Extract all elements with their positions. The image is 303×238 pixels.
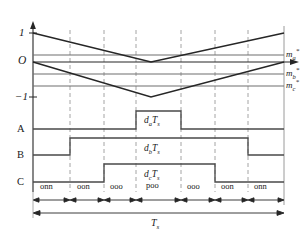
m-c-star-label: mc* xyxy=(286,79,299,92)
m-a-star-label: ma* xyxy=(286,48,299,61)
duty-b-tail-sub: s xyxy=(157,148,160,155)
row-label-a: A xyxy=(17,124,25,135)
state-label-3: ooo xyxy=(110,182,123,191)
state-label-7: onn xyxy=(254,182,267,191)
lower-carrier-waveform xyxy=(33,62,284,97)
state-label-5: ooo xyxy=(187,182,200,191)
figure-canvas: 1 O −1 A B C ma* mb* mc* daTs dbTs dcTs … xyxy=(0,0,303,238)
state-label-2: oon xyxy=(77,182,90,191)
row-label-b: B xyxy=(17,150,24,161)
period-sub: s xyxy=(157,223,160,231)
row-label-c: C xyxy=(17,177,24,188)
y-axis-arrow-icon xyxy=(30,21,36,29)
upper-carrier-waveform xyxy=(33,33,284,62)
state-label-6: oon xyxy=(221,182,234,191)
duty-a-label: daTs xyxy=(144,116,160,127)
poo-state-label: poo xyxy=(146,181,159,190)
period-arrow xyxy=(33,211,284,216)
y-label-minus-one: −1 xyxy=(15,91,28,102)
duty-a-tail-sub: s xyxy=(157,120,160,127)
m-c-star-sup: * xyxy=(295,78,299,86)
duty-b-label: dbTs xyxy=(144,144,160,155)
segment-arrows xyxy=(33,198,284,202)
y-label-origin: O xyxy=(18,55,26,67)
m-a-star-sup: * xyxy=(296,47,300,55)
period-label: Ts xyxy=(151,218,159,231)
state-label-1: onn xyxy=(40,182,53,191)
m-b-star-sup: * xyxy=(296,66,300,74)
y-label-one: 1 xyxy=(19,27,25,38)
